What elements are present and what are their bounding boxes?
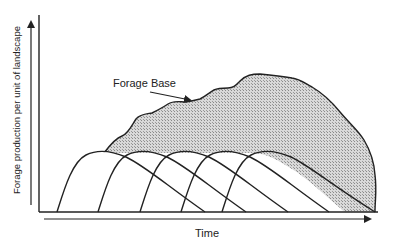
x-axis-label: Time — [195, 227, 219, 239]
forage-diagram: Forage Base Time Forage production per u… — [0, 0, 393, 250]
forage-base-label: Forage Base — [113, 77, 176, 89]
y-axis-label: Forage production per unit of landscape — [11, 26, 22, 194]
forage-base-pointer-arrow — [150, 92, 190, 100]
